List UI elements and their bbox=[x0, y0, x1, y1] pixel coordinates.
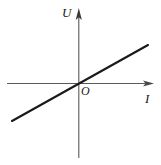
graph-figure: U I O bbox=[0, 0, 161, 165]
origin-label: O bbox=[81, 85, 90, 97]
y-axis-label: U bbox=[62, 6, 71, 19]
graph-canvas bbox=[0, 0, 161, 165]
x-axis-label: I bbox=[145, 92, 149, 105]
